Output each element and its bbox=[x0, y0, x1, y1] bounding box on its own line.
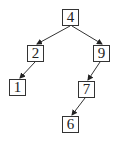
node-6: 6 bbox=[62, 116, 79, 133]
node-2: 2 bbox=[27, 45, 44, 62]
node-7: 7 bbox=[78, 81, 95, 98]
edge-7-to-6-arrow-icon bbox=[72, 98, 85, 115]
node-9: 9 bbox=[93, 45, 110, 62]
edge-2-to-1-arrow-icon bbox=[20, 62, 35, 78]
node-4: 4 bbox=[62, 9, 79, 26]
tree-edges bbox=[0, 0, 119, 142]
edge-9-to-7-arrow-icon bbox=[88, 62, 100, 80]
edge-4-to-9-arrow-icon bbox=[72, 26, 102, 44]
node-1: 1 bbox=[9, 79, 26, 96]
edge-4-to-2-arrow-icon bbox=[37, 26, 70, 44]
